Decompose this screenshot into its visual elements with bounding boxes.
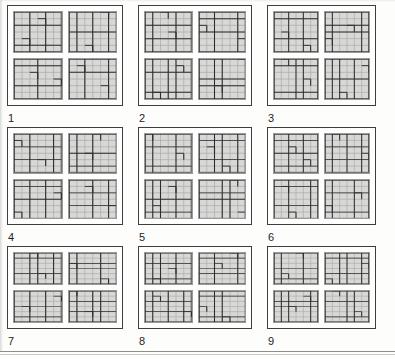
panel-2-subgrid-a (144, 11, 193, 53)
panel-8: 8 (135, 244, 264, 348)
page-rule-secondary (0, 354, 395, 355)
panel-4-subgrid-d (68, 179, 118, 220)
panel-label-2: 2 (139, 112, 145, 124)
panel-1: 1 (4, 3, 135, 125)
page-rule-primary (0, 351, 395, 352)
panel-9: 9 (264, 244, 388, 348)
panel-7: 7 (4, 244, 135, 348)
panel-8-subgrid-c (144, 290, 193, 323)
panel-4-box (7, 127, 123, 225)
panel-2-subgrid-container (144, 11, 246, 100)
panel-5-subgrid-c (144, 179, 193, 220)
panel-7-subgrid-c (13, 290, 63, 323)
panel-3-subgrid-c (273, 58, 319, 100)
panel-9-subgrid-b (324, 252, 370, 285)
panel-3-subgrid-container (273, 11, 370, 100)
panel-1-subgrid-b (68, 11, 118, 53)
panel-2-subgrid-b (198, 11, 247, 53)
panel-6-box (267, 127, 376, 225)
panel-2: 2 (135, 3, 264, 125)
panel-5-subgrid-b (198, 133, 247, 174)
panel-9-subgrid-d (324, 290, 370, 323)
panel-7-subgrid-b (68, 252, 118, 285)
panel-3-subgrid-d (324, 58, 370, 100)
panel-7-box (7, 246, 123, 329)
panel-1-subgrid-c (13, 58, 63, 100)
panel-5-subgrid-d (198, 179, 247, 220)
panel-6-subgrid-b (324, 133, 370, 174)
panel-1-subgrid-container (13, 11, 117, 100)
panel-7-subgrid-a (13, 252, 63, 285)
panel-5-subgrid-a (144, 133, 193, 174)
panel-label-1: 1 (8, 112, 14, 124)
panel-8-box (138, 246, 252, 329)
scan-shade-top (0, 0, 395, 2)
panel-2-subgrid-c (144, 58, 193, 100)
panel-4-subgrid-a (13, 133, 63, 174)
panel-2-subgrid-d (198, 58, 247, 100)
panel-5-box (138, 127, 252, 225)
panel-label-7: 7 (8, 335, 14, 347)
panel-3-subgrid-a (273, 11, 319, 53)
panel-5-subgrid-container (144, 133, 246, 219)
panel-9-subgrid-container (273, 252, 370, 323)
figure-root: 123456789 (0, 0, 395, 359)
panel-4-subgrid-container (13, 133, 117, 219)
panel-label-9: 9 (268, 335, 274, 347)
panel-9-box (267, 246, 376, 329)
panel-1-subgrid-d (68, 58, 118, 100)
panel-5: 5 (135, 125, 264, 244)
panel-7-subgrid-d (68, 290, 118, 323)
panel-label-5: 5 (139, 231, 145, 243)
panel-8-subgrid-d (198, 290, 247, 323)
panel-4-subgrid-b (68, 133, 118, 174)
panel-3-box (267, 5, 376, 106)
panel-6-subgrid-a (273, 133, 319, 174)
panel-9-subgrid-a (273, 252, 319, 285)
scan-shade-left (0, 0, 3, 351)
panel-6-subgrid-container (273, 133, 370, 219)
panel-1-box (7, 5, 123, 106)
panel-8-subgrid-a (144, 252, 193, 285)
panel-grid: 123456789 (4, 3, 392, 348)
panel-4: 4 (4, 125, 135, 244)
panel-6: 6 (264, 125, 388, 244)
panel-9-subgrid-c (273, 290, 319, 323)
panel-1-subgrid-a (13, 11, 63, 53)
panel-label-3: 3 (268, 112, 274, 124)
panel-label-4: 4 (8, 231, 14, 243)
panel-2-box (138, 5, 252, 106)
panel-3-subgrid-b (324, 11, 370, 53)
panel-6-subgrid-d (324, 179, 370, 220)
panel-label-8: 8 (139, 335, 145, 347)
panel-4-subgrid-c (13, 179, 63, 220)
panel-label-6: 6 (268, 231, 274, 243)
panel-7-subgrid-container (13, 252, 117, 323)
panel-6-subgrid-c (273, 179, 319, 220)
panel-8-subgrid-container (144, 252, 246, 323)
panel-3: 3 (264, 3, 388, 125)
panel-8-subgrid-b (198, 252, 247, 285)
